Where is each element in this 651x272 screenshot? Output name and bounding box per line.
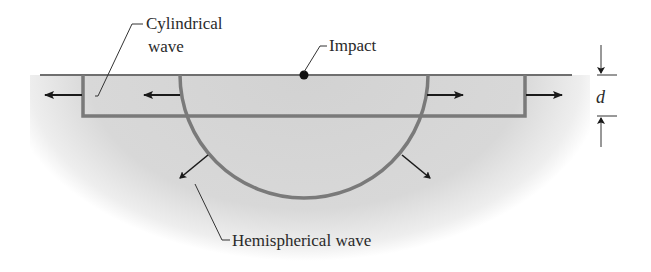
impact-label: Impact	[329, 36, 376, 55]
cylindrical-wave-label-line2: wave	[148, 37, 184, 56]
cylindrical-wave-label: Cylindrical	[146, 14, 223, 33]
seismic-wave-diagram: Cylindrical wave Impact d Hemispherical …	[0, 0, 651, 272]
depth-label: d	[596, 87, 606, 107]
impact-leader-line	[304, 46, 327, 72]
hemispherical-wave-label: Hemispherical wave	[232, 231, 371, 250]
